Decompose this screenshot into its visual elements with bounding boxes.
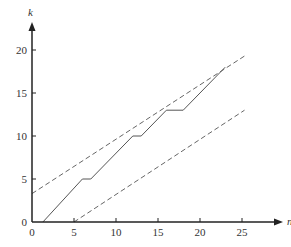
- x-tick-label: 15: [153, 226, 165, 238]
- x-tick-label: 10: [111, 226, 123, 238]
- x-axis-arrow-icon: [274, 219, 283, 226]
- y-tick-label: 0: [22, 216, 28, 228]
- y-tick-label: 5: [22, 173, 28, 185]
- chart: n k 051015202505101520: [0, 0, 291, 247]
- x-tick-label: 5: [71, 226, 77, 238]
- y-tick-label: 10: [16, 130, 28, 142]
- y-axis-label: k: [28, 6, 34, 18]
- plot-area: [32, 56, 245, 222]
- x-axis-label: n: [287, 215, 291, 227]
- y-tick-label: 15: [16, 87, 28, 99]
- staircase-line: [43, 67, 225, 222]
- x-tick-label: 0: [29, 226, 35, 238]
- y-axis-arrow-icon: [29, 22, 36, 31]
- ticks: 051015202505101520: [16, 44, 248, 238]
- lower-bound-line: [74, 110, 245, 222]
- x-tick-label: 25: [237, 226, 249, 238]
- x-tick-label: 20: [195, 226, 207, 238]
- upper-bound-line: [32, 56, 245, 194]
- y-tick-label: 20: [16, 44, 28, 56]
